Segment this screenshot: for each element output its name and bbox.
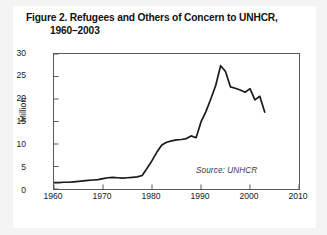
y-tick-label-0: 0 [0, 186, 26, 194]
figure-title-line-1: Figure 2. Refugees and Others of Concern… [26, 12, 278, 23]
x-tick-label-1980: 1980 [131, 192, 171, 201]
chart-svg [54, 54, 299, 189]
x-tick-label-2010: 2010 [278, 192, 318, 201]
y-tick-label-20: 20 [0, 94, 26, 102]
x-tick-label-1960: 1960 [33, 192, 73, 201]
y-tick-label-25: 25 [0, 71, 26, 79]
figure-title: Figure 2. Refugees and Others of Concern… [26, 11, 306, 37]
y-tick-label-30: 30 [0, 49, 26, 57]
y-tick-label-5: 5 [0, 163, 26, 171]
x-tick-label-1990: 1990 [180, 192, 220, 201]
figure-title-line-2: 1960–2003 [26, 24, 306, 37]
x-axis-ticks [54, 185, 299, 190]
y-axis-title: Million [18, 80, 28, 140]
figure-container: Figure 2. Refugees and Others of Concern… [0, 0, 327, 235]
y-tick-label-10: 10 [0, 140, 26, 148]
x-tick-label-2000: 2000 [229, 192, 269, 201]
plot-area [53, 53, 300, 190]
x-tick-label-1970: 1970 [82, 192, 122, 201]
y-tick-label-15: 15 [0, 117, 26, 125]
source-note: Source: UNHCR [196, 166, 257, 175]
y-axis-ticks [54, 54, 59, 189]
